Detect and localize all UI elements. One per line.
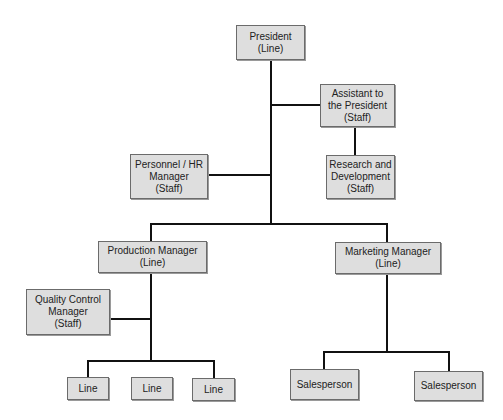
node-title: Assistant to: [332, 88, 384, 100]
connector-sales-bar: [323, 351, 450, 353]
connector-assistant: [271, 104, 321, 106]
node-title: Line: [79, 383, 98, 395]
node-title: Development: [331, 171, 390, 183]
node-title: Line: [204, 384, 223, 396]
node-role: (Line): [258, 43, 284, 55]
node-title: the President: [328, 100, 387, 112]
node-role: (Line): [140, 257, 166, 269]
node-title: Research and: [329, 159, 391, 171]
connector-lines-bar: [87, 360, 215, 362]
connector-research: [354, 126, 356, 156]
node-title: Quality Control: [35, 294, 101, 306]
org-chart: President (Line) Assistant to the Presid…: [0, 0, 503, 420]
connector-production-trunk: [150, 272, 152, 362]
node-title: Manager: [149, 171, 188, 183]
node-title: Manager: [48, 306, 87, 318]
node-title: Marketing Manager: [345, 246, 431, 258]
node-role: (Staff): [54, 318, 81, 330]
connector-marketing-trunk: [386, 273, 388, 353]
node-line-2: Line: [131, 377, 173, 400]
node-role: (Staff): [155, 183, 182, 195]
connector-marketing: [386, 223, 388, 243]
node-assistant: Assistant to the President (Staff): [320, 84, 395, 127]
connector-production: [150, 223, 152, 242]
node-salesperson-2: Salesperson: [414, 371, 483, 401]
node-research: Research and Development (Staff): [326, 155, 395, 199]
node-personnel: Personnel / HR Manager (Staff): [130, 154, 208, 199]
connector-line3: [213, 360, 215, 378]
node-quality: Quality Control Manager (Staff): [26, 289, 110, 335]
connector-quality: [109, 318, 151, 320]
node-title: Personnel / HR: [135, 159, 203, 171]
node-line-1: Line: [67, 377, 109, 400]
node-role: (Line): [375, 258, 401, 270]
node-production: Production Manager (Line): [98, 241, 207, 273]
node-title: President: [249, 31, 291, 43]
node-title: Line: [143, 383, 162, 395]
node-title: Salesperson: [297, 379, 353, 391]
node-role: (Staff): [344, 112, 371, 124]
node-title: Salesperson: [421, 380, 477, 392]
node-role: (Staff): [347, 183, 374, 195]
node-salesperson-1: Salesperson: [290, 369, 359, 400]
node-president: President (Line): [236, 25, 305, 60]
connector-personnel: [207, 174, 271, 176]
node-line-3: Line: [192, 378, 235, 401]
connector-managers-bar: [150, 223, 388, 225]
node-title: Production Manager: [107, 245, 197, 257]
connector-sales2: [448, 351, 450, 372]
connector-president-trunk: [270, 59, 272, 225]
node-marketing: Marketing Manager (Line): [335, 242, 441, 274]
connector-sales1: [323, 351, 325, 370]
connector-line1: [87, 360, 89, 378]
